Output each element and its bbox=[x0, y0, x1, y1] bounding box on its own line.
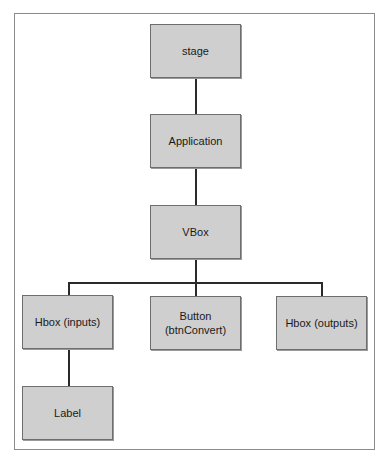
node-hbox-inputs-label: Hbox (inputs) bbox=[35, 315, 100, 329]
node-stage-label: stage bbox=[182, 44, 209, 58]
node-button: Button (btnConvert) bbox=[150, 296, 241, 350]
node-vbox-label: VBox bbox=[182, 225, 208, 239]
edge-vbox-trunk bbox=[195, 259, 197, 296]
node-hbox-inputs: Hbox (inputs) bbox=[22, 295, 113, 349]
node-hbox-outputs: Hbox (outputs) bbox=[276, 296, 367, 350]
edge-bus-hbox-outputs bbox=[321, 282, 323, 296]
node-hbox-outputs-label: Hbox (outputs) bbox=[285, 316, 357, 330]
node-application: Application bbox=[150, 114, 241, 168]
node-button-label: Button (btnConvert) bbox=[165, 309, 226, 337]
edge-bus-hbox-inputs bbox=[68, 282, 70, 295]
edge-horizontal-bus bbox=[68, 282, 322, 284]
node-stage: stage bbox=[150, 24, 241, 78]
node-label-label: Label bbox=[54, 406, 81, 420]
node-label: Label bbox=[22, 386, 113, 440]
edge-stage-application bbox=[195, 78, 197, 114]
node-vbox: VBox bbox=[150, 205, 241, 259]
node-application-label: Application bbox=[169, 134, 223, 148]
edge-application-vbox bbox=[195, 168, 197, 205]
edge-hbox-inputs-label bbox=[68, 349, 70, 386]
